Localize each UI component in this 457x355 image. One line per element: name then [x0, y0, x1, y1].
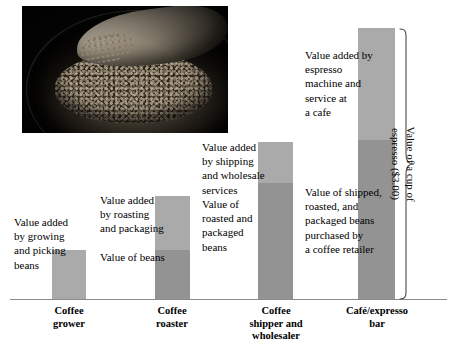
total-value-caption: Value of a cup of espresso ($3.00) [384, 28, 418, 300]
category-label-coffee-roaster: Coffee roaster [132, 305, 212, 330]
category-label-coffee-shipper: Coffee shipper and wholesaler [235, 305, 317, 343]
category-label-cafe-expresso: Café/expresso bar [333, 305, 421, 330]
category-label-line-1: Coffee [132, 305, 212, 318]
category-label-line-3: wholesaler [235, 330, 317, 343]
annotation-shipper-input-value: Value of roasted and packaged beans [202, 197, 278, 254]
annotation-roaster-input-value: Value of beans [100, 250, 192, 264]
category-label-line-2: roaster [132, 318, 212, 331]
annotation-roaster-value-added: Value added by roasting and packaging [100, 193, 184, 236]
value-chain-figure: Value added by growing and picking beans… [0, 0, 457, 355]
category-label-line-2: grower [29, 318, 109, 331]
category-label-line-2: shipper and [235, 318, 317, 331]
category-label-line-1: Coffee [29, 305, 109, 318]
annotation-cafe-value-added: Value added by espresso machine and serv… [305, 48, 395, 119]
category-label-line-1: Coffee [235, 305, 317, 318]
category-label-line-2: bar [333, 318, 421, 331]
category-label-line-1: Café/expresso [333, 305, 421, 318]
photo-vignette [22, 6, 228, 133]
annotation-grower-value-added: Value added by growing and picking beans [14, 215, 82, 272]
coffee-beans-photo [22, 6, 228, 133]
annotation-shipper-value-added: Value added by shipping and wholesale se… [202, 140, 286, 197]
chart-baseline-axis [10, 299, 447, 300]
category-label-coffee-grower: Coffee grower [29, 305, 109, 330]
